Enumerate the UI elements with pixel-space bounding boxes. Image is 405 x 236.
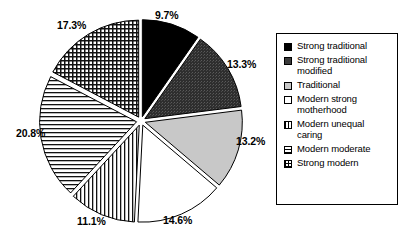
legend-item-label: Strong modern <box>297 157 359 168</box>
legend-item-label: Modern moderate <box>297 143 370 154</box>
pie-chart-figure: 9.7% 13.3% 13.2% 14.6% 11.1% 20.8% 17.3%… <box>0 0 405 236</box>
slice-label-modern-moderate: 20.8% <box>16 127 45 139</box>
pie-slices-group <box>40 20 243 222</box>
legend-item-traditional: Traditional <box>284 79 392 90</box>
legend-item-modern-moderate: Modern moderate <box>284 143 392 154</box>
legend-item-modern-unequal-caring: Modern unequal caring <box>284 118 392 140</box>
vertical-lines-swatch <box>284 121 292 129</box>
legend-item-label: Traditional <box>297 79 340 90</box>
legend-item-label: Strong traditional modified <box>297 54 392 76</box>
legend-item-strong-traditional-modified: Strong traditional modified <box>284 54 392 76</box>
chart-legend: Strong traditional Strong traditional mo… <box>276 33 398 205</box>
legend-item-strong-traditional: Strong traditional <box>284 40 392 51</box>
legend-item-label: Modern unequal caring <box>297 118 392 140</box>
legend-item-label: Modern strong motherhood <box>297 93 392 115</box>
slice-label-strong-traditional: 9.7% <box>155 9 179 21</box>
light-gray-swatch <box>284 82 292 90</box>
legend-item-modern-strong-motherhood: Modern strong motherhood <box>284 93 392 115</box>
pie-chart-plot-area: 9.7% 13.3% 13.2% 14.6% 11.1% 20.8% 17.3% <box>0 0 268 236</box>
grid-swatch <box>284 160 292 168</box>
pie-chart-svg <box>0 0 268 236</box>
legend-item-label: Strong traditional <box>297 40 367 51</box>
legend-item-strong-modern: Strong modern <box>284 157 392 168</box>
slice-label-strong-modern: 17.3% <box>57 19 86 31</box>
slice-label-modern-unequal-caring: 11.1% <box>77 215 106 227</box>
solid-black-swatch <box>284 43 292 51</box>
slice-label-modern-strong-motherhood: 14.6% <box>163 214 192 226</box>
white-swatch <box>284 96 292 104</box>
slice-label-strong-traditional-modified: 13.3% <box>227 58 256 70</box>
dark-stipple-swatch <box>284 57 292 65</box>
horizontal-lines-swatch <box>284 146 292 154</box>
slice-label-traditional: 13.2% <box>236 135 265 147</box>
